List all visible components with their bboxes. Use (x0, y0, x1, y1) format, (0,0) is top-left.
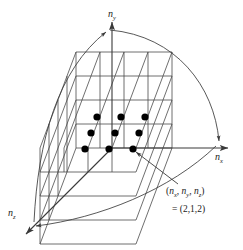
arc-nz-to-ny (34, 32, 106, 222)
lattice-point (141, 113, 148, 120)
axis-label-nx: nx (215, 152, 223, 165)
lattice-point (135, 129, 142, 136)
lattice-point (117, 113, 124, 120)
lattice-point (81, 145, 88, 152)
lattice-points (81, 113, 148, 152)
lattice-point (87, 129, 94, 136)
axis-nz-line (26, 148, 112, 234)
axis-label-ny: ny (108, 9, 116, 22)
lattice-point (129, 145, 136, 152)
annotation-value-line: = (2,1,2) (172, 205, 205, 215)
lattice-point (105, 145, 112, 152)
lattice-point (93, 113, 100, 120)
lattice-point (111, 129, 118, 136)
figure-canvas (0, 0, 243, 250)
annotation-tuple-line: (nx, ny, nz) (166, 187, 204, 198)
grid-bottom-plane (40, 172, 136, 244)
n-space-lattice-figure: ny nx nz (nx, ny, nz) = (2,1,2) (0, 0, 243, 250)
axis-label-nz: nz (8, 208, 16, 221)
